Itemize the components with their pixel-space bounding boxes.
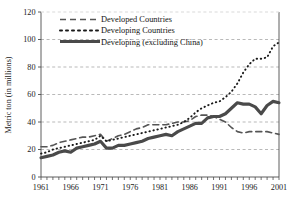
x-tick-label: 1991 bbox=[211, 183, 227, 192]
legend-label-developed: Developed Countries bbox=[101, 15, 172, 24]
x-tick-label: 1966 bbox=[63, 183, 79, 192]
x-axis-ticks bbox=[41, 177, 279, 180]
x-tick-label: 1986 bbox=[182, 183, 198, 192]
x-tick-label: 1961 bbox=[33, 183, 49, 192]
y-tick-label: 60 bbox=[27, 90, 35, 99]
line-chart: 020406080100120 196119661971197619811986… bbox=[0, 0, 295, 205]
chart-container: 020406080100120 196119661971197619811986… bbox=[0, 0, 295, 205]
x-tick-label: 1981 bbox=[152, 183, 168, 192]
x-tick-label: 2001 bbox=[271, 183, 287, 192]
x-axis-tick-labels: 196119661971197619811986199119962001 bbox=[33, 183, 287, 192]
y-tick-label: 80 bbox=[27, 63, 35, 72]
y-tick-label: 100 bbox=[23, 35, 35, 44]
legend-label-developing: Developing Countries bbox=[101, 26, 175, 35]
legend-label-developing-ex-china: Developing (excluding China) bbox=[101, 38, 203, 47]
x-tick-label: 1996 bbox=[241, 183, 257, 192]
y-tick-label: 120 bbox=[23, 8, 35, 17]
y-tick-label: 40 bbox=[27, 118, 35, 127]
x-tick-label: 1976 bbox=[122, 183, 138, 192]
y-tick-label: 0 bbox=[31, 173, 35, 182]
y-axis-title: Metric ton (in millions) bbox=[4, 56, 13, 133]
x-tick-label: 1971 bbox=[92, 183, 108, 192]
y-tick-label: 20 bbox=[27, 145, 35, 154]
